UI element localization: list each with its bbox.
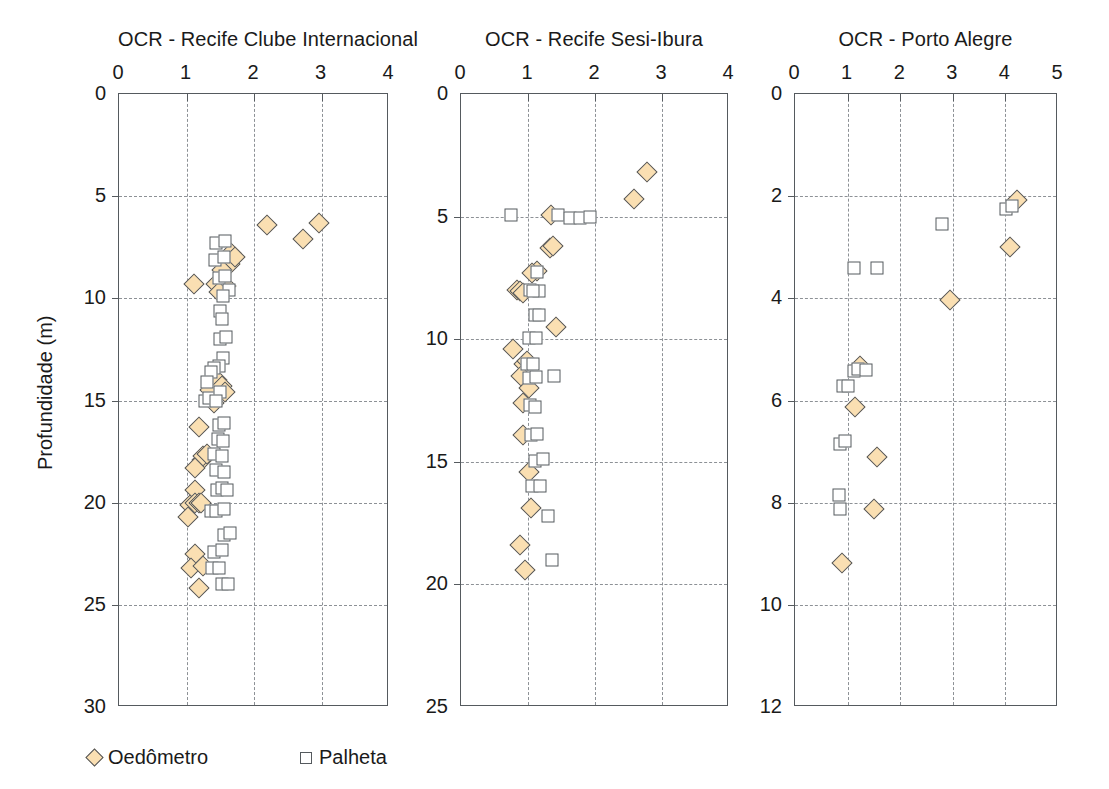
y-tick-mark (112, 503, 119, 504)
plot-area (118, 93, 388, 706)
data-point-palheta (504, 209, 517, 222)
x-tick-label: 4 (999, 61, 1010, 84)
data-point-palheta (532, 308, 545, 321)
y-tick-label: 25 (398, 695, 448, 718)
data-point-palheta (548, 369, 561, 382)
x-gridline (254, 94, 255, 705)
y-tick-label: 10 (732, 592, 782, 615)
x-tick-label: 0 (788, 61, 799, 84)
y-tick-label: 8 (732, 490, 782, 513)
x-tick-mark (187, 94, 188, 101)
plot-area (460, 93, 728, 706)
y-tick-label: 2 (732, 184, 782, 207)
data-point-oedometro (546, 316, 567, 337)
data-point-oedometro (256, 214, 277, 235)
data-point-palheta (530, 371, 543, 384)
y-tick-mark (788, 401, 795, 402)
y-tick-label: 5 (56, 184, 106, 207)
x-tick-label: 3 (655, 61, 666, 84)
data-point-palheta (219, 331, 232, 344)
data-point-palheta (860, 363, 873, 376)
y-tick-mark (112, 298, 119, 299)
legend-square-icon (300, 752, 312, 764)
x-tick-label: 1 (180, 61, 191, 84)
x-tick-mark (595, 94, 596, 101)
legend-label: Oedômetro (108, 746, 208, 769)
data-point-palheta (870, 261, 883, 274)
legend-item: Palheta (300, 746, 387, 769)
data-point-palheta (221, 484, 234, 497)
x-tick-label: 2 (588, 61, 599, 84)
x-tick-mark (1005, 94, 1006, 101)
y-tick-label: 12 (732, 695, 782, 718)
data-point-palheta (218, 251, 231, 264)
data-point-oedometro (308, 212, 329, 233)
data-point-oedometro (863, 498, 884, 519)
x-gridline (595, 94, 596, 705)
data-point-palheta (218, 269, 231, 282)
data-point-oedometro (999, 237, 1020, 258)
x-tick-label: 4 (382, 61, 393, 84)
y-tick-mark (454, 217, 461, 218)
data-point-palheta (1006, 200, 1019, 213)
data-point-oedometro (188, 416, 209, 437)
y-gridline (461, 462, 727, 463)
data-point-palheta (838, 435, 851, 448)
y-tick-mark (112, 605, 119, 606)
y-tick-mark (788, 298, 795, 299)
y-gridline (795, 605, 1056, 606)
data-point-palheta (847, 261, 860, 274)
data-point-oedometro (292, 228, 313, 249)
x-tick-mark (662, 94, 663, 101)
x-tick-label: 2 (894, 61, 905, 84)
data-point-palheta (530, 331, 543, 344)
plot-area (794, 93, 1057, 706)
x-tick-mark (528, 94, 529, 101)
panel-title: OCR - Porto Alegre (794, 28, 1057, 51)
y-gridline (461, 339, 727, 340)
x-tick-mark (322, 94, 323, 101)
x-tick-mark (953, 94, 954, 101)
data-point-palheta (222, 578, 235, 591)
y-tick-mark (112, 401, 119, 402)
data-point-palheta (212, 562, 225, 575)
data-point-palheta (527, 357, 540, 370)
data-point-oedometro (189, 578, 210, 599)
y-gridline (119, 401, 387, 402)
data-point-oedometro (637, 162, 658, 183)
y-tick-label: 10 (398, 327, 448, 350)
x-gridline (322, 94, 323, 705)
legend-diamond-icon (85, 748, 103, 766)
data-point-palheta (552, 209, 565, 222)
y-tick-label: 10 (56, 286, 106, 309)
x-tick-label: 3 (946, 61, 957, 84)
x-gridline (662, 94, 663, 705)
y-tick-label: 30 (56, 695, 106, 718)
y-tick-mark (454, 584, 461, 585)
data-point-palheta (536, 453, 549, 466)
y-tick-label: 0 (732, 82, 782, 105)
y-tick-mark (454, 462, 461, 463)
x-tick-mark (848, 94, 849, 101)
chart-figure: OCR - Recife Clube Internacional OCR - R… (0, 0, 1109, 789)
data-point-palheta (215, 543, 228, 556)
data-point-palheta (527, 285, 540, 298)
data-point-oedometro (866, 446, 887, 467)
data-point-palheta (218, 416, 231, 429)
data-point-palheta (936, 218, 949, 231)
x-tick-label: 5 (1051, 61, 1062, 84)
data-point-oedometro (515, 559, 536, 580)
data-point-palheta (218, 235, 231, 248)
y-tick-label: 15 (56, 388, 106, 411)
x-gridline (900, 94, 901, 705)
y-gridline (795, 401, 1056, 402)
data-point-palheta (834, 502, 847, 515)
x-tick-label: 3 (315, 61, 326, 84)
data-point-palheta (528, 400, 541, 413)
legend-label: Palheta (319, 746, 387, 769)
data-point-palheta (215, 449, 228, 462)
y-tick-mark (788, 503, 795, 504)
data-point-palheta (224, 527, 237, 540)
data-point-palheta (200, 376, 213, 389)
x-gridline (1005, 94, 1006, 705)
